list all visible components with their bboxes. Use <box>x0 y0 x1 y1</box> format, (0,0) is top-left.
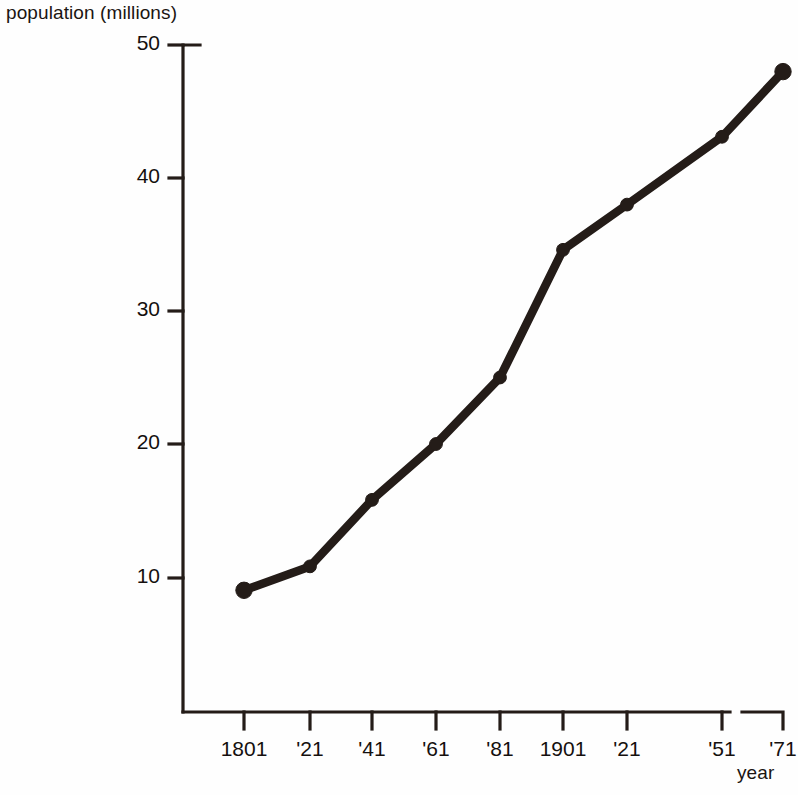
data-point-marker <box>775 63 791 79</box>
y-tick-label: 30 <box>88 297 160 321</box>
line-chart-plot <box>0 0 798 795</box>
data-point-marker <box>494 371 507 384</box>
y-axis-line <box>183 45 200 712</box>
data-point-marker <box>557 243 570 256</box>
data-point-marker <box>304 560 317 573</box>
y-tick-label: 50 <box>88 31 160 55</box>
chart-axes <box>183 45 783 729</box>
x-axis-line-segment-2 <box>742 712 783 729</box>
y-tick-label: 40 <box>88 164 160 188</box>
chart-tick-marks <box>169 45 722 729</box>
data-point-marker <box>366 493 379 506</box>
population-line <box>244 72 783 591</box>
data-point-marker <box>236 582 252 598</box>
data-point-marker <box>430 438 443 451</box>
x-tick-label: '71 <box>738 737 798 761</box>
y-tick-label: 20 <box>88 430 160 454</box>
data-point-marker <box>716 130 729 143</box>
chart-figure: population (millions) year 1020304050 18… <box>0 0 798 795</box>
x-tick-label: '21 <box>582 737 672 761</box>
data-point-marker <box>621 198 634 211</box>
population-line-series <box>244 72 783 591</box>
y-tick-label: 10 <box>88 564 160 588</box>
